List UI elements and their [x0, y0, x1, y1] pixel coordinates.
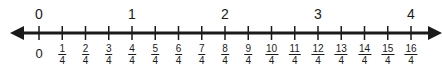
numerator: 3: [105, 43, 113, 55]
denominator: 4: [152, 55, 158, 66]
numerator: 16: [404, 43, 417, 55]
numerator: 15: [381, 43, 394, 55]
fraction-label: 124: [311, 43, 324, 66]
fraction-label: 74: [198, 43, 206, 66]
numerator: 7: [198, 43, 206, 55]
fraction-label: 34: [105, 43, 113, 66]
left-arrow-icon: [10, 26, 24, 40]
fraction-label: 104: [265, 43, 278, 66]
numerator: 10: [265, 43, 278, 55]
numerator: 6: [175, 43, 183, 55]
zero-fraction-label: 0: [35, 46, 42, 61]
denominator: 4: [106, 55, 112, 66]
fraction-label: 94: [244, 43, 252, 66]
fraction-label: 24: [82, 43, 90, 66]
numerator: 5: [151, 43, 159, 55]
fraction-label: 144: [358, 43, 371, 66]
whole-number-label: 3: [314, 6, 322, 22]
fraction-label: 164: [404, 43, 417, 66]
numerator: 2: [82, 43, 90, 55]
numerator: 13: [335, 43, 348, 55]
whole-number-label: 1: [128, 6, 136, 22]
denominator: 4: [385, 55, 391, 66]
whole-number-label: 2: [221, 6, 229, 22]
denominator: 4: [199, 55, 205, 66]
fraction-label: 44: [128, 43, 136, 66]
denominator: 4: [83, 55, 89, 66]
fraction-label: 14: [58, 43, 66, 66]
denominator: 4: [176, 55, 182, 66]
denominator: 4: [222, 55, 228, 66]
right-arrow-icon: [428, 26, 442, 40]
numerator: 4: [128, 43, 136, 55]
denominator: 4: [129, 55, 135, 66]
numerator: 8: [221, 43, 229, 55]
denominator: 4: [245, 55, 251, 66]
fraction-label: 84: [221, 43, 229, 66]
fraction-label: 64: [175, 43, 183, 66]
denominator: 4: [408, 55, 414, 66]
fraction-label: 114: [289, 43, 301, 66]
numerator: 14: [358, 43, 371, 55]
denominator: 4: [292, 55, 298, 66]
numerator: 11: [289, 43, 301, 55]
whole-number-label: 4: [407, 6, 415, 22]
fraction-label: 54: [151, 43, 159, 66]
denominator: 4: [315, 55, 321, 66]
number-line-diagram: 0123401424344454647484941041141241341441…: [0, 0, 442, 73]
whole-number-label: 0: [35, 6, 43, 22]
fraction-label: 134: [335, 43, 348, 66]
denominator: 4: [59, 55, 65, 66]
numerator: 12: [311, 43, 324, 55]
fraction-label: 154: [381, 43, 394, 66]
numerator: 9: [244, 43, 252, 55]
denominator: 4: [269, 55, 275, 66]
numerator: 1: [58, 43, 66, 55]
denominator: 4: [338, 55, 344, 66]
denominator: 4: [362, 55, 368, 66]
